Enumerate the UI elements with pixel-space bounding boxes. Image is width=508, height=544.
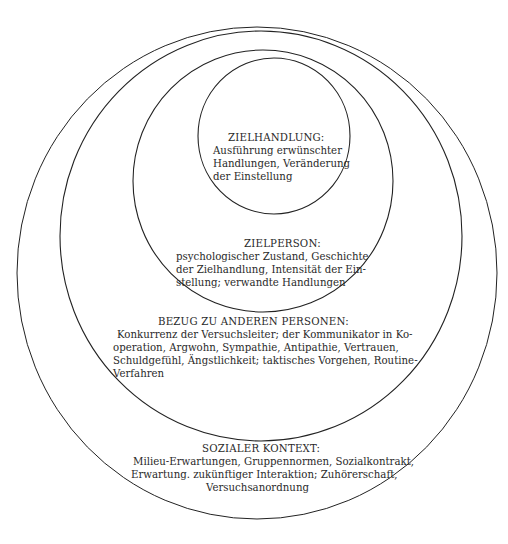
label-zielhandlung: ZIELHANDLUNG: Ausführung erwünschter Han… [213, 131, 350, 183]
bezug-line: Verfahren [113, 367, 418, 380]
zielhandlung-line: Ausführung erwünschter [213, 144, 350, 157]
zielhandlung-line: Handlungen, Veränderung [213, 157, 350, 170]
label-zielperson: ZIELPERSON: psychologischer Zustand, Ges… [176, 237, 369, 289]
sozialer-kontext-line: Versuchsanordnung [131, 481, 414, 494]
zielhandlung-line: der Einstellung [213, 170, 350, 183]
bezug-title: BEZUG ZU ANDEREN PERSONEN: [113, 315, 418, 328]
zielperson-title: ZIELPERSON: [176, 237, 369, 250]
sozialer-kontext-line: Milieu-Erwartungen, Gruppennormen, Sozia… [131, 455, 414, 468]
label-sozialer-kontext: SOZIALER KONTEXT: Milieu-Erwartungen, Gr… [131, 442, 414, 494]
zielperson-line: der Zielhandlung, Intensität der Ein- [176, 263, 369, 276]
bezug-line: Konkurrenz der Versuchsleiter; der Kommu… [113, 328, 418, 341]
label-bezug-zu-anderen-personen: BEZUG ZU ANDEREN PERSONEN: Konkurrenz de… [113, 315, 418, 380]
zielperson-line: stellung; verwandte Handlungen [176, 276, 369, 289]
sozialer-kontext-title: SOZIALER KONTEXT: [131, 442, 414, 455]
zielperson-line: psychologischer Zustand, Geschichte [176, 250, 369, 263]
bezug-line: operation, Argwohn, Sympathie, Antipathi… [113, 341, 418, 354]
bezug-line: Schuldgefühl, Ängstlichkeit; taktisches … [113, 354, 418, 367]
zielhandlung-title: ZIELHANDLUNG: [213, 131, 350, 144]
sozialer-kontext-line: Erwartung. zukünftiger Interaktion; Zuhö… [131, 468, 414, 481]
